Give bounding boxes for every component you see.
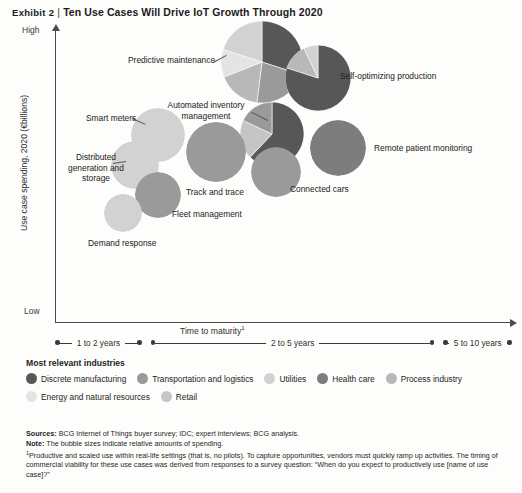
x-axis-line [55, 322, 512, 323]
x-axis-brackets: 1 to 2 years2 to 5 years5 to 10 years [0, 336, 522, 350]
footnote-note: Note: The bubble sizes indicate relative… [26, 439, 506, 448]
footnote-one: 1Productive and scaled use within real-l… [26, 449, 506, 479]
legend-item-energy-and-natural-resources[interactable]: Energy and natural resources [26, 391, 150, 402]
x-axis-title: Time to maturity1 [180, 325, 245, 336]
footnote-sources-label: Sources: [26, 429, 57, 438]
bubble-label-automated-inventory-management: Automated inventory management [160, 100, 252, 121]
bubble-label-track-and-trace: Track and trace [186, 187, 244, 198]
legend-item-label: Health care [332, 374, 374, 384]
x-bracket-2: 2 to 5 years [151, 336, 434, 350]
legend-item-retail[interactable]: Retail [161, 391, 197, 402]
page-title: Exhibit 2|Ten Use Cases Will Drive IoT G… [12, 6, 512, 18]
legend-title: Most relevant industries [26, 358, 125, 368]
x-axis-arrow-icon [510, 319, 517, 327]
legend-item-transportation-and-logistics[interactable]: Transportation and logistics [137, 373, 253, 384]
bracket-dot-left [151, 340, 156, 345]
bracket-label: 2 to 5 years [266, 336, 319, 350]
legend-item-label: Process industry [401, 374, 462, 384]
y-axis-title: Use case spending, 2020 (€billions) [19, 63, 29, 263]
bracket-dot-right [137, 340, 142, 345]
x-axis-title-text: Time to maturity [180, 326, 241, 336]
bracket-label: 1 to 2 years [72, 336, 125, 350]
bubble-label-remote-patient-monitoring: Remote patient monitoring [374, 143, 472, 154]
bracket-dot-left [55, 340, 60, 345]
y-axis-line [55, 30, 56, 322]
legend-swatch-icon [161, 391, 172, 402]
y-axis-high-label: High [22, 25, 39, 35]
bracket-dot-right [430, 340, 435, 345]
exhibit-label: Exhibit 2 [12, 7, 54, 18]
y-axis-arrow-icon [52, 24, 60, 31]
legend-item-label: Energy and natural resources [41, 392, 150, 402]
bubble-label-fleet-management: Fleet management [172, 209, 242, 220]
footnotes: Sources: BCG Internet of Things buyer su… [26, 429, 506, 479]
bracket-dot-right [507, 340, 512, 345]
legend-swatch-icon [137, 373, 148, 384]
legend-swatch-icon [386, 373, 397, 384]
footnote-note-text: The bubble sizes indicate relative amoun… [46, 439, 223, 448]
bubble-label-demand-response: Demand response [88, 238, 156, 249]
bubble-label-smart-meters: Smart meters [86, 113, 136, 124]
footnote-sources: Sources: BCG Internet of Things buyer su… [26, 429, 506, 438]
legend-item-process-industry[interactable]: Process industry [386, 373, 462, 384]
footnote-sources-text: BCG Internet of Things buyer survey; IDC… [59, 429, 299, 438]
exhibit-title: Ten Use Cases Will Drive IoT Growth Thro… [63, 6, 322, 18]
legend-swatch-icon [317, 373, 328, 384]
footnote-one-text: Productive and scaled use within real-li… [26, 451, 498, 479]
bubble-label-self-optimizing-production: Self-optimizing production [340, 71, 436, 82]
legend-row-secondary: Energy and natural resourcesRetail [26, 391, 208, 402]
title-separator: | [54, 6, 63, 18]
bubble-label-predictive-maintenance: Predictive maintenance [128, 55, 215, 66]
legend-item-discrete-manufacturing[interactable]: Discrete manufacturing [26, 373, 126, 384]
y-axis-low-label: Low [24, 306, 40, 316]
legend-swatch-icon [26, 391, 37, 402]
x-bracket-3: 5 to 10 years [443, 336, 512, 350]
legend-row-primary: Discrete manufacturingTransportation and… [26, 373, 473, 384]
bubble-label-distributed-generation-and-storage: Distributed generation and storage [66, 152, 126, 184]
legend-item-health-care[interactable]: Health care [317, 373, 374, 384]
bubble-track-and-trace [186, 122, 246, 182]
x-bracket-1: 1 to 2 years [55, 336, 142, 350]
bubble-demand-response [104, 194, 142, 232]
footnote-note-label: Note: [26, 439, 44, 448]
bracket-label: 5 to 10 years [449, 336, 507, 350]
bracket-dot-left [443, 340, 448, 345]
legend-item-utilities[interactable]: Utilities [264, 373, 306, 384]
bubble-label-connected-cars: Connected cars [290, 184, 349, 195]
x-axis-footnote-marker: 1 [241, 325, 244, 331]
legend-item-label: Utilities [279, 374, 306, 384]
legend-swatch-icon [26, 373, 37, 384]
legend-item-label: Discrete manufacturing [41, 374, 126, 384]
legend-item-label: Retail [176, 392, 197, 402]
legend-swatch-icon [264, 373, 275, 384]
exhibit-page: Exhibit 2|Ten Use Cases Will Drive IoT G… [0, 0, 522, 493]
legend-item-label: Transportation and logistics [152, 374, 253, 384]
bubble-remote-patient-monitoring [310, 120, 366, 176]
